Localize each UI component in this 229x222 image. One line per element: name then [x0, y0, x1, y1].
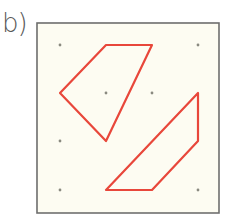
grid-dot — [59, 44, 62, 47]
grid-dot — [59, 140, 62, 143]
grid-dot — [197, 189, 200, 192]
grid-dot — [105, 92, 108, 95]
grid-dot — [197, 44, 200, 47]
grid-dot — [59, 189, 62, 192]
grid-dot — [151, 92, 154, 95]
dot-grid-figure — [0, 0, 229, 222]
grid-paper — [37, 23, 219, 213]
